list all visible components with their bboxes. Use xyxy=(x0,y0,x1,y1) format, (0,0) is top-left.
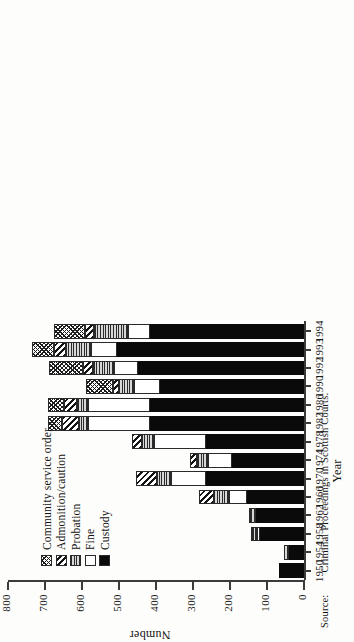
legend-item-diagonal-stripes: Admonition/caution xyxy=(55,428,68,566)
bar-segment-fine xyxy=(154,434,206,449)
category-axis-line xyxy=(304,321,306,580)
bar-segment-probation xyxy=(157,471,171,486)
bar-segment-admonition-caution xyxy=(85,324,95,339)
bar-1978 xyxy=(132,434,304,449)
bar-segment-probation xyxy=(253,527,257,542)
bar-segment-fine xyxy=(88,398,151,413)
category-tick xyxy=(304,496,311,498)
category-tick xyxy=(304,386,311,388)
legend-swatch-icon xyxy=(56,555,67,566)
value-tick-label: 0 xyxy=(296,594,308,638)
legend-swatch-icon xyxy=(85,555,96,566)
category-tick xyxy=(304,441,311,443)
bar-segment-fine xyxy=(128,324,151,339)
bar-segment-fine xyxy=(208,453,232,468)
bar-segment-custody xyxy=(256,508,304,523)
category-tick xyxy=(304,515,311,517)
category-tick-label: 1994 xyxy=(314,308,325,354)
value-tick xyxy=(7,582,9,590)
value-tick xyxy=(81,582,83,590)
value-tick-label: 300 xyxy=(185,594,197,638)
bar-1974 xyxy=(190,453,304,468)
legend-item-label: Community service order xyxy=(41,428,53,550)
legend-swatch-icon xyxy=(41,555,52,566)
bar-segment-probation xyxy=(94,324,127,339)
category-tick xyxy=(304,404,311,406)
value-tick-label: 200 xyxy=(222,594,234,638)
bar-segment-probation xyxy=(142,434,154,449)
bar-segment-fine xyxy=(114,361,138,376)
value-tick xyxy=(44,582,46,590)
value-axis-title: Number xyxy=(129,627,170,642)
bar-segment-probation xyxy=(284,545,290,560)
bar-segment-custody xyxy=(247,490,304,505)
value-tick xyxy=(118,582,120,590)
bar-1992 xyxy=(49,361,304,376)
legend-item-label: Custody xyxy=(99,510,111,550)
bar-1962 xyxy=(249,508,304,523)
value-tick xyxy=(155,582,157,590)
bar-segment-custody xyxy=(150,416,304,431)
value-tick-label: 600 xyxy=(74,594,86,638)
bar-segment-community-service-order xyxy=(32,342,53,357)
bar-segment-admonition-caution xyxy=(64,398,77,413)
legend-item-crosshatch: Community service order xyxy=(40,428,53,566)
bar-segment-probation xyxy=(119,379,134,394)
legend-swatch-icon xyxy=(70,555,81,566)
value-tick-label: 100 xyxy=(259,594,271,638)
bar-segment-custody xyxy=(206,471,304,486)
bar-segment-custody xyxy=(150,398,304,413)
bar-segment-admonition-caution xyxy=(199,490,214,505)
legend-item-white: Fine xyxy=(84,428,97,566)
bar-segment-community-service-order xyxy=(48,398,64,413)
category-tick xyxy=(304,570,311,572)
value-tick xyxy=(266,582,268,590)
bar-1990 xyxy=(86,379,304,394)
bar-segment-custody xyxy=(260,527,304,542)
bar-segment-admonition-caution xyxy=(132,434,143,449)
bar-segment-custody xyxy=(150,324,304,339)
bar-1954 xyxy=(284,545,304,560)
bar-segment-probation xyxy=(214,490,229,505)
bar-segment-fine xyxy=(171,471,206,486)
bar-segment-admonition-caution xyxy=(54,342,66,357)
value-tick xyxy=(192,582,194,590)
bar-segment-community-service-order xyxy=(49,361,82,376)
bar-segment-probation xyxy=(77,398,88,413)
value-tick xyxy=(229,582,231,590)
category-tick xyxy=(304,330,311,332)
bar-1970 xyxy=(136,471,304,486)
bar-segment-custody xyxy=(289,545,304,560)
bar-segment-fine xyxy=(91,342,118,357)
bar-segment-admonition-caution xyxy=(113,379,119,394)
bar-segment-custody xyxy=(279,563,304,578)
source-text: Criminal Proceedings in Scottish Courts. xyxy=(319,393,330,573)
category-axis-title: Year xyxy=(330,306,345,636)
category-tick xyxy=(304,367,311,369)
bar-1950 xyxy=(279,563,304,578)
bar-segment-admonition-caution xyxy=(190,453,197,468)
legend: Community service orderAdmonition/cautio… xyxy=(40,428,113,566)
category-tick xyxy=(304,422,311,424)
bar-segment-admonition-caution xyxy=(136,471,156,486)
bar-segment-fine xyxy=(134,379,160,394)
value-tick xyxy=(303,582,305,590)
bar-segment-custody xyxy=(117,342,304,357)
bar-segment-probation xyxy=(251,508,256,523)
bar-segment-fine xyxy=(257,527,260,542)
bar-segment-admonition-caution xyxy=(83,361,94,376)
bar-1966 xyxy=(199,490,304,505)
bar-segment-probation xyxy=(66,342,91,357)
bar-1986 xyxy=(48,398,304,413)
bar-segment-community-service-order xyxy=(54,324,85,339)
source-label: Source: xyxy=(319,595,330,628)
category-tick xyxy=(304,478,311,480)
category-tick xyxy=(304,349,311,351)
legend-item-solid-black: Custody xyxy=(98,428,111,566)
value-tick-label: 500 xyxy=(111,594,123,638)
bar-segment-fine xyxy=(229,490,247,505)
bar-segment-community-service-order xyxy=(86,379,113,394)
bar-segment-custody xyxy=(160,379,304,394)
legend-item-label: Probation xyxy=(70,503,82,550)
